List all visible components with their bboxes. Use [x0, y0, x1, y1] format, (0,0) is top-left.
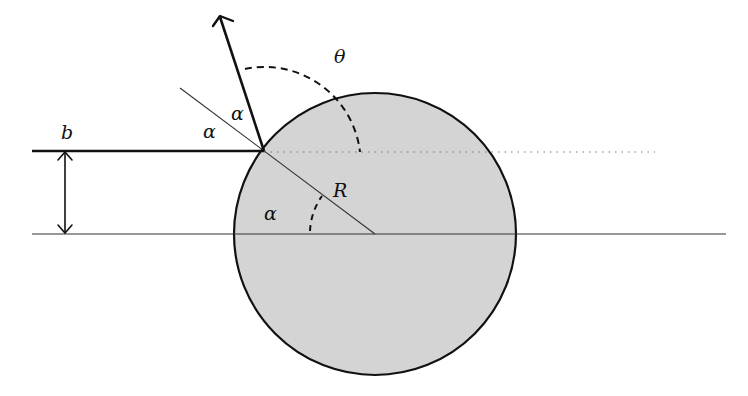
label-angle-reflected: α: [231, 102, 244, 124]
label-angle-center: α: [264, 202, 277, 224]
label-radius: R: [332, 179, 347, 201]
label-scattering-angle: θ: [334, 45, 346, 67]
label-impact-parameter: b: [61, 121, 73, 143]
scattered-trajectory: [220, 17, 264, 151]
label-angle-incident: α: [203, 120, 216, 142]
scattering-diagram: b R θ α α α: [0, 0, 748, 396]
